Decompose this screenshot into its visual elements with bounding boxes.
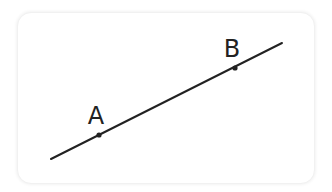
line-diagram: A B: [0, 0, 332, 192]
line-ab: [51, 43, 282, 159]
point-a: [96, 132, 101, 137]
point-a-label: A: [88, 102, 105, 130]
point-b-label: B: [224, 35, 240, 63]
point-b: [232, 65, 237, 70]
